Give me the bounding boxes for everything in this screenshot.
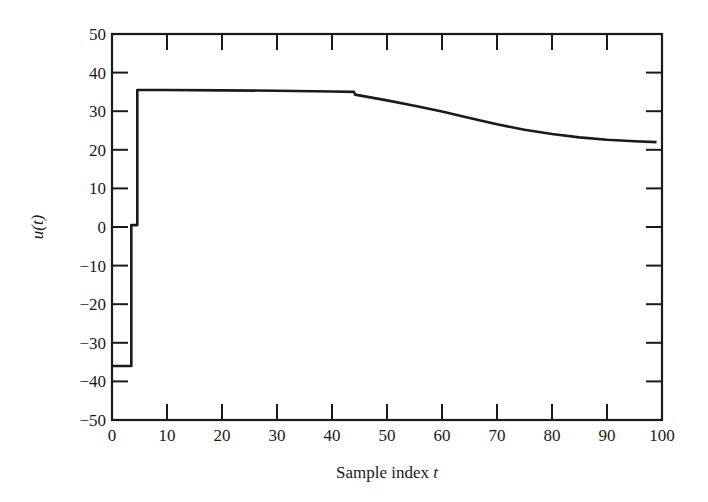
x-tick-label: 50 [379, 426, 396, 445]
y-tick-label: 40 [89, 64, 106, 83]
y-axis-ticks [112, 73, 662, 382]
y-axis-label: u(t) [28, 214, 47, 239]
x-axis-ticks [167, 34, 607, 420]
x-tick-label: 40 [324, 426, 341, 445]
y-tick-label: 0 [98, 218, 107, 237]
x-tick-label: 100 [649, 426, 675, 445]
x-tick-label: 0 [108, 426, 117, 445]
y-axis-tick-labels: 50403020100−10−20−30−40−50 [79, 25, 106, 430]
y-tick-label: 30 [89, 102, 106, 121]
x-tick-label: 30 [269, 426, 286, 445]
x-tick-label: 90 [599, 426, 616, 445]
y-tick-label: 10 [89, 179, 106, 198]
x-axis-label: Sample index t [336, 463, 439, 482]
y-tick-label: −30 [79, 334, 106, 353]
data-series-u [112, 90, 657, 366]
line-chart: 50403020100−10−20−30−40−50 0102030405060… [0, 0, 708, 502]
y-tick-label: −10 [79, 257, 106, 276]
x-tick-label: 80 [544, 426, 561, 445]
x-tick-label: 70 [489, 426, 506, 445]
x-axis-tick-labels: 0102030405060708090100 [108, 426, 675, 445]
y-tick-label: −20 [79, 295, 106, 314]
x-tick-label: 60 [434, 426, 451, 445]
x-tick-label: 20 [214, 426, 231, 445]
x-axis-label-text: Sample index [336, 463, 433, 482]
y-tick-label: 50 [89, 25, 106, 44]
y-tick-label: 20 [89, 141, 106, 160]
x-axis-label-var: t [433, 463, 439, 482]
y-tick-label: −50 [79, 411, 106, 430]
x-tick-label: 10 [159, 426, 176, 445]
plot-frame [112, 34, 662, 420]
plot-border [112, 34, 662, 420]
y-tick-label: −40 [79, 372, 106, 391]
